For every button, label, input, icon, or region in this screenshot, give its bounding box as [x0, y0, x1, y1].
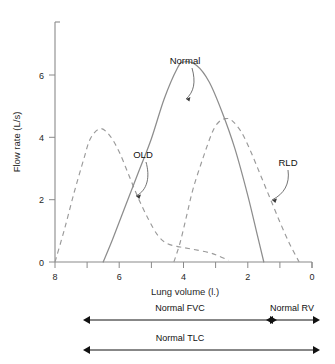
curve-rld — [174, 118, 299, 262]
x-tick-label-0: 0 — [309, 272, 314, 282]
span-bar-label-rv: Normal RV — [270, 303, 314, 313]
curve-normal — [103, 62, 264, 262]
x-tick-label-2: 2 — [245, 272, 250, 282]
x-tick-label-4: 4 — [181, 272, 186, 282]
annotation-normal: Normal — [170, 55, 201, 102]
annotation-rld: RLD — [272, 157, 298, 203]
x-tick-label-8: 8 — [52, 272, 57, 282]
annotation-old: OLD — [133, 149, 153, 199]
chart-canvas: 0 2 4 6 8 6 4 2 0 Flow rate (L/s) Lung v… — [0, 0, 335, 364]
span-bar-rv: Normal RV — [270, 303, 314, 320]
leader-line-rld — [272, 170, 288, 200]
curves-group — [55, 62, 299, 262]
curve-label-normal: Normal — [170, 55, 201, 66]
span-bar-label-tlc: Normal TLC — [156, 333, 205, 343]
y-tick-label-6: 6 — [39, 71, 44, 81]
curve-label-old: OLD — [133, 149, 153, 160]
y-tick-label-0: 0 — [39, 258, 44, 268]
x-tick-group: 8 6 4 2 0 — [52, 262, 314, 282]
leader-arrowhead-normal — [186, 97, 190, 102]
x-tick-label-6: 6 — [117, 272, 122, 282]
leader-line-normal — [186, 68, 194, 99]
y-tick-label-4: 4 — [39, 133, 44, 143]
span-bar-fvc: Normal FVC — [90, 303, 270, 320]
y-axis-title: Flow rate (L/s) — [11, 112, 22, 173]
leader-line-old — [136, 162, 148, 196]
span-bar-tlc: Normal TLC — [90, 333, 313, 350]
span-bar-label-fvc: Normal FVC — [155, 303, 205, 313]
curve-label-rld: RLD — [278, 157, 297, 168]
flow-volume-loop-figure: 0 2 4 6 8 6 4 2 0 Flow rate (L/s) Lung v… — [0, 0, 335, 364]
x-axis-title: Lung volume (l.) — [151, 286, 219, 297]
y-tick-group: 0 2 4 6 — [39, 71, 55, 268]
y-tick-label-2: 2 — [39, 195, 44, 205]
